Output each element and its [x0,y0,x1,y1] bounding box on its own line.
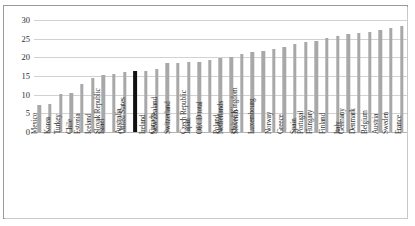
x-axis-category-label: Sweden [383,112,390,134]
x-label-slot: United States [130,134,141,220]
x-label-slot: Turkey [55,134,66,220]
bar [315,41,318,132]
x-label-slot: Hungary [311,134,322,220]
x-label-slot: Estonia [77,134,88,220]
x-axis-category-label: New Zealand [152,97,159,134]
x-axis-category-label: Hungary [308,110,315,134]
x-label-slot: Japan [183,134,194,220]
x-label-slot: Denmark [354,134,365,220]
x-axis-category-label: Germany [339,108,346,134]
y-axis-tick-label: 20 [22,53,31,62]
x-label-slot: Spain [290,134,301,220]
y-axis-tick-label: 25 [22,34,31,43]
x-label-slot: Chile [66,134,77,220]
x-axis-category-label: Korea [45,117,52,134]
figure-border: 051015202530 MexicoKoreaTurkeyChileEston… [3,5,408,219]
y-axis-tick-label: 15 [22,72,31,81]
y-axis-tick-label: 10 [22,90,31,99]
x-label-slot: Italy [332,134,343,220]
x-label-slot: Netherlands [226,134,237,220]
figure-root: 051015202530 MexicoKoreaTurkeyChileEston… [0,0,415,226]
x-label-slot: Norway [268,134,279,220]
x-axis-category-label: OECD total [197,101,204,134]
x-label-slot: United Kingdom [247,134,258,220]
x-label-slot: Slovak Republic [109,134,120,220]
x-label-slot: Canada [151,134,162,220]
y-axis-tick-label: 30 [22,16,31,25]
x-label-slot: Luxembourg [258,134,269,220]
x-axis-category-label: Slovak Republic [95,88,102,134]
x-axis-category-label: Mexico [32,113,39,134]
x-axis-category-label: Luxembourg [249,98,256,134]
x-label-slot: New Zealand [162,134,173,220]
x-axis-category-label: Denmark [350,108,357,134]
x-label-slot: Switzerland [173,134,184,220]
x-label-slot: Czech Republic [194,134,205,220]
x-label-slot: Mexico [34,134,45,220]
x-label-slot: Austria [375,134,386,220]
x-axis-category-label: Ireland [140,115,147,134]
x-axis-category-label: France [396,115,403,134]
x-axis-category-label: Czech Republic [181,90,188,134]
x-axis-category-label: Finland [320,113,327,134]
x-label-slot: Germany [343,134,354,220]
x-axis-category-label: Greece [278,115,285,134]
x-axis-category-label: Switzerland [165,101,172,134]
y-axis-tick-label: 5 [26,109,30,118]
x-axis-category-label: Turkey [54,114,61,134]
x-label-slot: Poland [215,134,226,220]
bar-highlighted [133,71,137,132]
bar [240,54,243,132]
x-label-slot: Israel [98,134,109,220]
x-axis-labels: MexicoKoreaTurkeyChileEstoniaIcelandIsra… [34,134,407,220]
x-label-slot: Ireland [141,134,152,220]
x-label-slot: Sweden [386,134,397,220]
bar [208,60,211,132]
x-label-slot: Belgium [364,134,375,220]
x-label-slot: Greece [279,134,290,220]
x-axis-category-label: Belgium [361,110,368,134]
x-label-slot: Portugal [300,134,311,220]
x-axis-category-label: Austria [374,114,381,134]
y-axis-tick-label: 0 [26,128,30,137]
x-axis-category-label: Iceland [86,114,93,134]
x-label-slot: OECD total [205,134,216,220]
x-label-slot: Finland [322,134,333,220]
x-axis-category-label: Norway [266,112,273,134]
x-label-slot: Australia [119,134,130,220]
x-axis-category-label: United States [120,97,127,134]
x-label-slot: France [396,134,407,220]
x-label-slot: Korea [45,134,56,220]
x-axis-category-label: Netherlands [218,101,225,134]
x-axis-category-label: United Kingdom [233,88,240,135]
x-axis-category-label: Estonia [75,113,82,134]
x-label-slot: Slovenia [236,134,247,220]
x-axis-category-label: Portugal [298,111,305,134]
x-label-slot: Iceland [87,134,98,220]
